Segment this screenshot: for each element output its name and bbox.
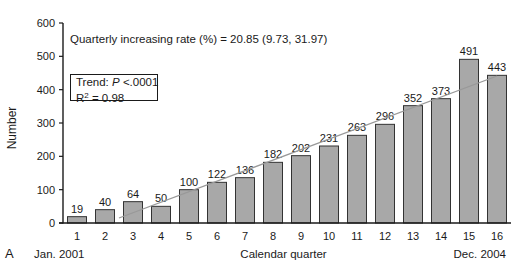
- bar: [236, 178, 255, 223]
- x-tick-label: 15: [463, 230, 475, 242]
- bar-value-label: 40: [99, 196, 111, 208]
- trend-prefix: Trend:: [76, 76, 112, 88]
- bar-value-label: 182: [264, 148, 282, 160]
- bar: [152, 206, 171, 223]
- bar-value-label: 136: [236, 164, 254, 176]
- x-end-label: Dec. 2004: [454, 248, 506, 260]
- x-tick-labels: 12345678910111213141516: [74, 230, 503, 242]
- bar-value-label: 19: [71, 203, 83, 215]
- bar: [320, 146, 339, 223]
- x-tick-label: 3: [130, 230, 136, 242]
- bar: [264, 162, 283, 223]
- x-axis-label: Calendar quarter: [0, 248, 527, 260]
- x-tick-label: 16: [491, 230, 503, 242]
- rate-annotation: Quarterly increasing rate (%) = 20.85 (9…: [70, 33, 327, 45]
- bar: [488, 75, 507, 223]
- p-value: <.0001: [120, 76, 159, 88]
- bar-value-label: 352: [404, 92, 422, 104]
- x-tick-label: 10: [323, 230, 335, 242]
- x-tick-label: 2: [102, 230, 108, 242]
- bar: [376, 124, 395, 223]
- y-tick-label: 400: [37, 84, 55, 96]
- x-tick-label: 11: [351, 230, 362, 242]
- x-tick-label: 7: [242, 230, 248, 242]
- y-tick-label: 100: [37, 184, 55, 196]
- x-tick-label: 8: [270, 230, 276, 242]
- x-tick-label: 14: [435, 230, 447, 242]
- x-tick-label: 4: [158, 230, 164, 242]
- y-tick-label: 200: [37, 150, 55, 162]
- x-tick-label: 6: [214, 230, 220, 242]
- y-tick-label: 600: [37, 17, 55, 29]
- y-tick-label: 500: [37, 50, 55, 62]
- bar: [348, 135, 367, 223]
- bar: [432, 99, 451, 223]
- bar: [68, 217, 87, 223]
- trend-p-line: Trend: P <.0001: [76, 76, 157, 89]
- bar-value-label: 491: [460, 45, 478, 57]
- x-tick-label: 1: [74, 230, 80, 242]
- bar-value-label: 443: [488, 61, 506, 73]
- bar-value-label: 100: [180, 176, 198, 188]
- bar: [96, 210, 115, 223]
- y-axis-label: Number: [5, 107, 19, 150]
- y-tick-labels: 0100200300400500600: [37, 17, 55, 229]
- bar: [404, 106, 423, 223]
- x-tick-label: 13: [407, 230, 419, 242]
- y-tick-label: 300: [37, 117, 55, 129]
- r2-line: R2 = 0.98: [76, 89, 157, 105]
- x-tick-label: 9: [298, 230, 304, 242]
- p-symbol: P: [112, 76, 120, 88]
- bar: [292, 156, 311, 223]
- bar-value-label: 64: [127, 188, 139, 200]
- bar: [208, 182, 227, 223]
- x-tick-label: 12: [379, 230, 391, 242]
- r2-value: = 0.98: [89, 92, 125, 104]
- x-tick-label: 5: [186, 230, 192, 242]
- trend-stats-box: Trend: P <.0001 R2 = 0.98: [70, 74, 158, 101]
- y-tick-label: 0: [49, 217, 55, 229]
